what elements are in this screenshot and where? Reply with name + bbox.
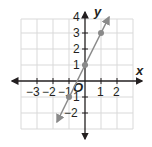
x-tick-label: −3: [26, 85, 40, 99]
y-tick-label: 3: [73, 26, 80, 40]
data-point: [66, 94, 72, 100]
x-tick-label: 2: [113, 85, 120, 99]
y-tick-label: 2: [73, 42, 80, 56]
data-point: [98, 30, 104, 36]
y-tick-label: 4: [73, 10, 80, 24]
x-tick-label: 1: [97, 85, 104, 99]
x-tick-label: −2: [42, 85, 56, 99]
coordinate-graph: −3 −2 −1 1 2 −2 1 2 3 4 1 O x y: [0, 0, 152, 147]
y-axis-label: y: [93, 4, 102, 19]
data-point: [82, 62, 88, 68]
y-tick-label: 1: [73, 58, 80, 72]
y-tick-label: −2: [64, 106, 78, 120]
x-axis-label: x: [135, 63, 144, 78]
